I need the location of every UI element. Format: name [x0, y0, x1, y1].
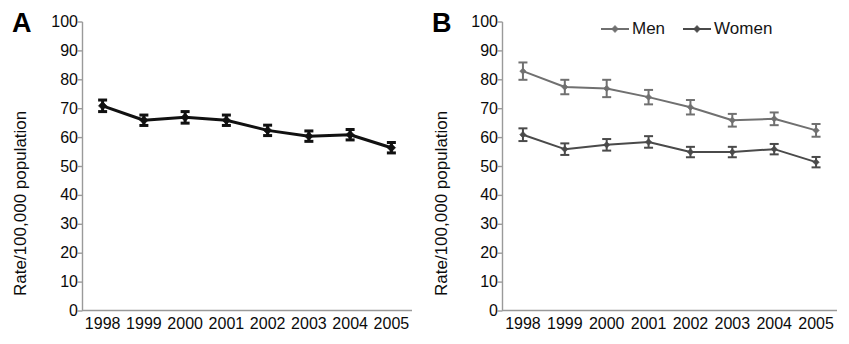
legend-label: Men [632, 20, 665, 37]
x-tick-label: 2002 [673, 315, 709, 333]
panel-b-y-axis-title: Rate/100,000 population [432, 111, 452, 296]
data-point-marker [687, 149, 693, 155]
figure-container: A Rate/100,000 population 01020304050607… [0, 0, 849, 344]
y-tick-label: 70 [480, 101, 498, 117]
data-point-marker [603, 85, 609, 91]
panel-a-y-tick-labels: 0102030405060708090100 [44, 22, 78, 311]
data-point-marker [181, 113, 189, 121]
y-tick-label: 100 [471, 14, 498, 30]
data-series [518, 128, 820, 167]
data-point-marker [520, 132, 526, 138]
data-point-marker [520, 68, 526, 74]
data-point-marker [813, 159, 819, 165]
x-tick-label: 2003 [715, 315, 751, 333]
y-tick-label: 20 [60, 245, 78, 261]
data-point-marker [687, 104, 693, 110]
legend-marker-icon [600, 22, 630, 36]
y-tick-label: 40 [60, 187, 78, 203]
data-point-marker [98, 102, 106, 110]
x-tick-label: 2004 [756, 315, 792, 333]
x-tick-label: 2003 [291, 315, 327, 333]
y-tick-label: 90 [60, 43, 78, 59]
data-point-marker [771, 116, 777, 122]
y-tick-label: 70 [60, 101, 78, 117]
y-tick-label: 60 [480, 130, 498, 146]
legend-marker-icon [682, 22, 712, 36]
data-point-marker [645, 139, 651, 145]
data-point-marker [729, 149, 735, 155]
data-point-marker [387, 144, 395, 152]
legend-entry-women[interactable]: Women [682, 20, 772, 37]
data-point-marker [562, 84, 568, 90]
panel-a-x-tick-labels: 19981999200020012002200320042005 [82, 315, 412, 337]
y-tick-label: 80 [60, 72, 78, 88]
data-point-marker [771, 146, 777, 152]
panel-a-y-axis-title: Rate/100,000 population [11, 111, 31, 296]
panel-b-x-tick-labels: 19981999200020012002200320042005 [502, 315, 837, 337]
y-tick-label: 20 [480, 245, 498, 261]
panel-b-legend: MenWomen [600, 20, 772, 37]
x-tick-label: 2004 [332, 315, 368, 333]
panel-b-y-tick-labels: 0102030405060708090100 [464, 22, 498, 311]
data-point-marker [263, 126, 271, 134]
y-tick-label: 0 [69, 303, 78, 319]
x-tick-label: 2005 [798, 315, 834, 333]
x-tick-label: 1998 [85, 315, 121, 333]
data-point-marker [346, 131, 354, 139]
y-tick-label: 40 [480, 187, 498, 203]
data-point-marker [603, 142, 609, 148]
y-tick-label: 30 [480, 216, 498, 232]
panel-a-letter: A [12, 10, 31, 37]
data-series [518, 62, 820, 136]
y-tick-label: 10 [60, 274, 78, 290]
y-tick-label: 60 [60, 130, 78, 146]
data-point-marker [140, 116, 148, 124]
x-tick-label: 1998 [505, 315, 541, 333]
chart-svg [502, 22, 837, 311]
data-point-marker [813, 127, 819, 133]
panel-a-plot-area [82, 22, 412, 311]
y-tick-label: 90 [480, 43, 498, 59]
x-tick-label: 2000 [167, 315, 203, 333]
x-tick-label: 1999 [547, 315, 583, 333]
legend-entry-men[interactable]: Men [600, 20, 665, 37]
y-tick-label: 10 [480, 274, 498, 290]
data-point-marker [222, 116, 230, 124]
y-tick-label: 0 [489, 303, 498, 319]
panel-b: B Rate/100,000 population 01020304050607… [424, 0, 849, 344]
panel-b-letter: B [432, 10, 451, 37]
data-point-marker [729, 117, 735, 123]
x-tick-label: 2001 [209, 315, 245, 333]
data-point-marker [645, 94, 651, 100]
chart-svg [82, 22, 412, 311]
x-tick-label: 2002 [250, 315, 286, 333]
data-series [98, 100, 396, 153]
x-tick-label: 2005 [374, 315, 410, 333]
legend-label: Women [714, 20, 772, 37]
y-tick-label: 50 [60, 159, 78, 175]
y-tick-label: 50 [480, 159, 498, 175]
y-tick-label: 100 [51, 14, 78, 30]
x-tick-label: 2001 [631, 315, 667, 333]
panel-a: A Rate/100,000 population 01020304050607… [0, 0, 424, 344]
x-tick-label: 2000 [589, 315, 625, 333]
data-point-marker [562, 146, 568, 152]
data-point-marker [305, 132, 313, 140]
panel-b-plot-area [502, 22, 837, 311]
y-tick-label: 80 [480, 72, 498, 88]
y-tick-label: 30 [60, 216, 78, 232]
x-tick-label: 1999 [126, 315, 162, 333]
